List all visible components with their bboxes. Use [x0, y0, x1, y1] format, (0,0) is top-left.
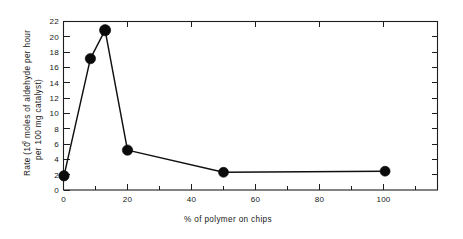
y-tick-label: 4: [54, 155, 59, 164]
figure-container: 0 2 4 6 8 10 12 14 16 18 20 22: [0, 0, 463, 239]
x-tick-label: 80: [315, 195, 325, 204]
x-tick-label: 0: [61, 195, 66, 204]
y-tick-label: 16: [50, 63, 60, 72]
data-point: [122, 145, 132, 155]
x-axis-title: % of polymer on chips: [184, 215, 272, 224]
y-axis-title-line2: per 100 mg catalyst): [34, 79, 43, 160]
y-tick-label: 2: [54, 171, 59, 180]
x-tick-label: 40: [187, 195, 197, 204]
y-tick-label: 8: [54, 125, 59, 134]
x-tick-label: 20: [123, 195, 133, 204]
y-axis-title-superscript: -5: [21, 141, 27, 146]
data-point: [85, 53, 95, 63]
y-tick-label: 10: [50, 109, 60, 118]
data-point: [380, 166, 390, 176]
y-tick-label: 0: [54, 186, 59, 195]
x-tick-label: 100: [376, 195, 390, 204]
x-tick-label: 60: [251, 195, 261, 204]
y-tick-label: 14: [50, 79, 60, 88]
data-point: [100, 25, 111, 36]
y-axis-title-line1-tail: moles of aldehyde per hour: [23, 30, 32, 138]
data-point: [219, 167, 229, 177]
y-tick-label: 20: [50, 33, 60, 42]
y-tick-label: 12: [50, 94, 60, 103]
y-tick-label: 22: [50, 17, 60, 26]
y-axis-title-line1-head: Rate (10: [23, 142, 32, 176]
chart-background: [0, 0, 463, 239]
data-point: [59, 171, 69, 181]
line-chart: 0 2 4 6 8 10 12 14 16 18 20 22: [0, 0, 463, 239]
y-tick-label: 18: [50, 48, 60, 57]
y-tick-label: 6: [54, 140, 59, 149]
